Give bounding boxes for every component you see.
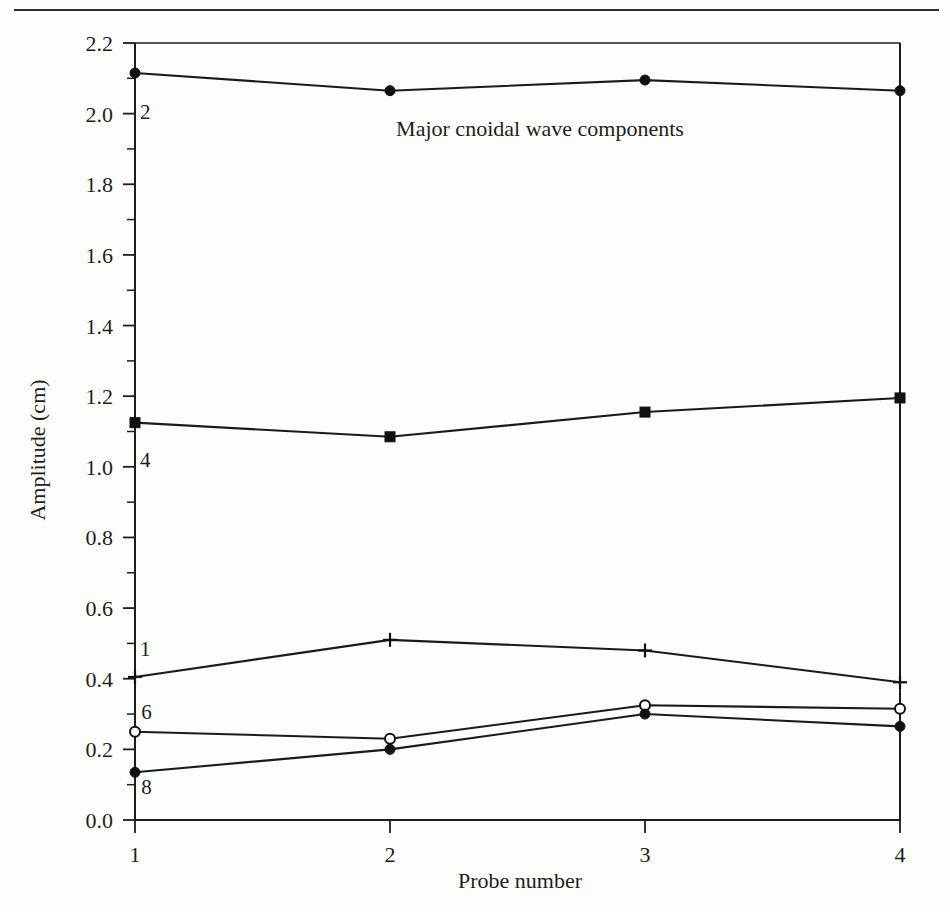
data-point-marker <box>128 670 142 684</box>
chart-title: Major cnoidal wave components <box>396 116 684 141</box>
series-line-1 <box>135 640 900 682</box>
x-tick-label: 4 <box>895 842 906 867</box>
data-point-marker <box>895 721 905 731</box>
chart-figure: 0.00.20.40.60.81.01.21.41.61.82.02.2 123… <box>0 0 950 912</box>
data-point-marker <box>640 75 650 85</box>
series-label-1: 1 <box>140 637 151 661</box>
data-point-marker <box>385 86 395 96</box>
data-point-marker <box>640 407 650 417</box>
y-axis-ticks <box>123 43 135 820</box>
y-tick-label: 1.0 <box>86 455 114 480</box>
series-line-4 <box>135 398 900 437</box>
y-tick-label: 0.2 <box>86 737 114 762</box>
series-markers <box>128 68 907 777</box>
y-tick-label: 1.2 <box>86 384 114 409</box>
data-point-marker <box>895 86 905 96</box>
data-point-marker <box>893 675 907 689</box>
chart-canvas: 0.00.20.40.60.81.01.21.41.61.82.02.2 123… <box>0 0 950 912</box>
data-point-marker <box>383 633 397 647</box>
y-axis-title: Amplitude (cm) <box>25 379 50 520</box>
y-tick-label: 1.8 <box>86 172 114 197</box>
data-point-marker <box>385 734 395 744</box>
plot-frame <box>135 43 900 820</box>
y-axis-tick-labels: 0.00.20.40.60.81.01.21.41.61.82.02.2 <box>86 31 114 833</box>
y-tick-label: 2.0 <box>86 102 114 127</box>
x-axis-title: Probe number <box>458 868 583 893</box>
data-point-marker <box>130 727 140 737</box>
series-labels: 24168 <box>140 100 152 799</box>
data-point-marker <box>130 767 140 777</box>
data-point-marker <box>385 744 395 754</box>
x-tick-label: 3 <box>640 842 651 867</box>
series-label-6: 6 <box>141 700 152 724</box>
data-point-marker <box>130 68 140 78</box>
y-tick-label: 0.8 <box>86 525 114 550</box>
x-axis-tick-labels: 1234 <box>130 842 906 867</box>
series-label-8: 8 <box>141 775 152 799</box>
data-point-marker <box>895 393 905 403</box>
data-point-marker <box>638 643 652 657</box>
y-tick-label: 0.0 <box>86 808 114 833</box>
x-axis-ticks <box>135 820 900 833</box>
x-tick-label: 2 <box>385 842 396 867</box>
data-point-marker <box>640 709 650 719</box>
series-label-4: 4 <box>140 448 151 472</box>
series-line-2 <box>135 73 900 91</box>
x-tick-label: 1 <box>130 842 141 867</box>
y-tick-label: 0.6 <box>86 596 114 621</box>
data-point-marker <box>895 704 905 714</box>
series-lines <box>135 73 900 772</box>
data-point-marker <box>385 432 395 442</box>
series-label-2: 2 <box>140 100 151 124</box>
y-tick-label: 1.4 <box>86 314 114 339</box>
y-tick-label: 1.6 <box>86 243 114 268</box>
series-line-6 <box>135 705 900 739</box>
y-tick-label: 2.2 <box>86 31 114 56</box>
figure-page: 0.00.20.40.60.81.01.21.41.61.82.02.2 123… <box>0 0 950 912</box>
y-tick-label: 0.4 <box>86 667 114 692</box>
data-point-marker <box>130 418 140 428</box>
